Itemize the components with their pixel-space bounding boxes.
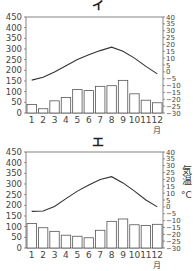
right-axis-tick-label: 40 bbox=[166, 149, 175, 157]
left-axis-tick-label: 300 bbox=[6, 179, 22, 189]
month-unit-label: 月 bbox=[153, 261, 161, 270]
left-axis-tick-label: 100 bbox=[6, 222, 22, 232]
precipitation-bar bbox=[84, 91, 93, 113]
right-axis-tick-label: −30 bbox=[166, 110, 181, 118]
plot-frame bbox=[26, 17, 163, 113]
precipitation-bar bbox=[73, 236, 82, 248]
month-label: 8 bbox=[109, 115, 115, 125]
temperature-axis-label: 気温 bbox=[180, 165, 191, 185]
month-label: 10 bbox=[129, 250, 141, 260]
precipitation-bar bbox=[27, 104, 36, 113]
chart-panel-e: エ 050100150200250300350400450−30−25−20−1… bbox=[0, 135, 195, 270]
left-axis-tick-label: 450 bbox=[6, 147, 22, 157]
chart-panel-i: イ 050100150200250300350400450−30−25−20−1… bbox=[0, 0, 195, 135]
left-axis-tick-label: 0 bbox=[17, 108, 22, 118]
left-axis-tick-label: 50 bbox=[11, 97, 22, 107]
precipitation-bar bbox=[84, 238, 93, 248]
month-label: 5 bbox=[75, 250, 81, 260]
precipitation-bar bbox=[61, 97, 70, 113]
right-axis-tick-label: 0 bbox=[166, 203, 170, 211]
left-axis-tick-label: 0 bbox=[17, 243, 22, 253]
left-axis-tick-label: 200 bbox=[6, 65, 22, 75]
precipitation-bar bbox=[38, 228, 47, 248]
left-axis-tick-label: 300 bbox=[6, 44, 22, 54]
right-axis-tick-label: −10 bbox=[166, 217, 181, 225]
month-label: 4 bbox=[63, 115, 69, 125]
month-label: 8 bbox=[109, 250, 115, 260]
month-label: 7 bbox=[97, 115, 103, 125]
left-axis-tick-label: 250 bbox=[6, 55, 22, 65]
right-axis-tick-label: 20 bbox=[166, 41, 175, 49]
month-label: 12 bbox=[152, 115, 163, 125]
precipitation-bar bbox=[153, 224, 162, 248]
precipitation-bar bbox=[118, 80, 127, 113]
right-axis-tick-label: 25 bbox=[166, 34, 175, 42]
precipitation-bar bbox=[153, 103, 162, 113]
left-axis-tick-label: 200 bbox=[6, 200, 22, 210]
right-axis-tick-label: −25 bbox=[166, 238, 181, 246]
right-axis-tick-label: 5 bbox=[166, 197, 170, 205]
precipitation-bar bbox=[96, 86, 105, 113]
temperature-unit: °C bbox=[181, 190, 192, 200]
month-label: 1 bbox=[29, 115, 35, 125]
right-axis-tick-label: 0 bbox=[166, 68, 170, 76]
right-axis-tick-label: 20 bbox=[166, 176, 175, 184]
left-axis-tick-label: 50 bbox=[11, 232, 22, 242]
month-label: 7 bbox=[97, 250, 103, 260]
right-axis-tick-label: 15 bbox=[166, 48, 175, 56]
climate-chart-i: 050100150200250300350400450−30−25−20−15−… bbox=[0, 0, 195, 135]
left-axis-tick-label: 150 bbox=[6, 76, 22, 86]
right-axis-tick-label: −30 bbox=[166, 245, 181, 253]
climate-chart-e: 050100150200250300350400450−30−25−20−15−… bbox=[0, 135, 195, 271]
precipitation-bar bbox=[130, 94, 139, 113]
right-axis-tick-label: −25 bbox=[166, 103, 181, 111]
month-label: 1 bbox=[29, 250, 35, 260]
right-axis-tick-label: 10 bbox=[166, 55, 175, 63]
right-axis-tick-label: 35 bbox=[166, 20, 175, 28]
right-axis-tick-label: 30 bbox=[166, 162, 175, 170]
precipitation-bar bbox=[73, 90, 82, 113]
left-axis-tick-label: 350 bbox=[6, 33, 22, 43]
left-axis-tick-label: 250 bbox=[6, 190, 22, 200]
precipitation-bar bbox=[141, 225, 150, 248]
right-axis-tick-label: 15 bbox=[166, 183, 175, 191]
right-axis-tick-label: −10 bbox=[166, 82, 181, 90]
month-label: 4 bbox=[63, 250, 69, 260]
precipitation-bar bbox=[107, 86, 116, 113]
month-label: 9 bbox=[120, 250, 126, 260]
month-label: 5 bbox=[75, 115, 81, 125]
month-label: 6 bbox=[86, 250, 92, 260]
precipitation-bar bbox=[107, 221, 116, 248]
month-label: 11 bbox=[140, 115, 151, 125]
precipitation-bar bbox=[61, 235, 70, 248]
right-axis-tick-label: −15 bbox=[166, 224, 181, 232]
temperature-line bbox=[32, 47, 158, 80]
left-axis-tick-label: 400 bbox=[6, 158, 22, 168]
precipitation-bar bbox=[141, 100, 150, 113]
precipitation-bar bbox=[50, 101, 59, 113]
left-axis-tick-label: 100 bbox=[6, 87, 22, 97]
precipitation-bar bbox=[130, 225, 139, 248]
precipitation-bar bbox=[118, 219, 127, 248]
right-axis-tick-label: 25 bbox=[166, 169, 175, 177]
month-label: 2 bbox=[40, 250, 46, 260]
month-label: 2 bbox=[40, 115, 46, 125]
right-axis-tick-label: 40 bbox=[166, 14, 175, 22]
right-axis-tick-label: −5 bbox=[166, 75, 176, 83]
month-label: 3 bbox=[52, 250, 58, 260]
right-axis-tick-label: −20 bbox=[166, 96, 181, 104]
right-axis-tick-label: −15 bbox=[166, 89, 181, 97]
right-axis-tick-label: 10 bbox=[166, 190, 175, 198]
right-axis-tick-label: −5 bbox=[166, 210, 176, 218]
month-label: 9 bbox=[120, 115, 126, 125]
right-axis-tick-label: 5 bbox=[166, 62, 170, 70]
month-label: 6 bbox=[86, 115, 92, 125]
month-label: 10 bbox=[129, 115, 141, 125]
left-axis-tick-label: 400 bbox=[6, 23, 22, 33]
right-axis-tick-label: 35 bbox=[166, 155, 175, 163]
precipitation-bar bbox=[27, 223, 36, 248]
right-axis-tick-label: 30 bbox=[166, 27, 175, 35]
precipitation-bar bbox=[96, 230, 105, 248]
month-label: 12 bbox=[152, 250, 163, 260]
month-label: 11 bbox=[140, 250, 151, 260]
